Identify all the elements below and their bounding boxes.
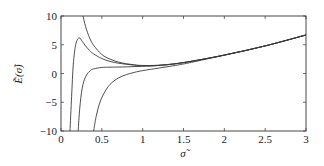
y-axis-label: Ẽ(σ̃) (12, 63, 25, 85)
series-line-curve-4 (94, 35, 306, 131)
y-tick-label: 0 (52, 68, 58, 80)
series-line-curve-2 (70, 35, 306, 131)
x-tick-label: 2 (222, 133, 228, 145)
data-curves (70, 16, 306, 131)
series-line-curve-3 (78, 35, 306, 131)
x-tick-label: 0.5 (95, 133, 109, 145)
x-tick-label: 2.5 (258, 133, 272, 145)
x-tick-label: 1.5 (177, 133, 191, 145)
y-axis-ticks: −10−50510 (40, 10, 306, 137)
y-tick-label: 10 (46, 10, 58, 22)
series-line-curve-1 (83, 16, 306, 66)
line-chart: 00.511.522.53 −10−50510 σ̃ Ẽ(σ̃) (0, 0, 324, 166)
x-axis-label: σ̃ (180, 147, 190, 159)
y-tick-label: −10 (40, 125, 58, 137)
y-tick-label: −5 (45, 96, 57, 108)
plot-frame (61, 16, 306, 131)
x-tick-label: 1 (140, 133, 146, 145)
y-tick-label: 5 (52, 39, 58, 51)
x-tick-label: 3 (303, 133, 309, 145)
x-axis-ticks: 00.511.522.53 (58, 16, 309, 145)
x-tick-label: 0 (58, 133, 64, 145)
